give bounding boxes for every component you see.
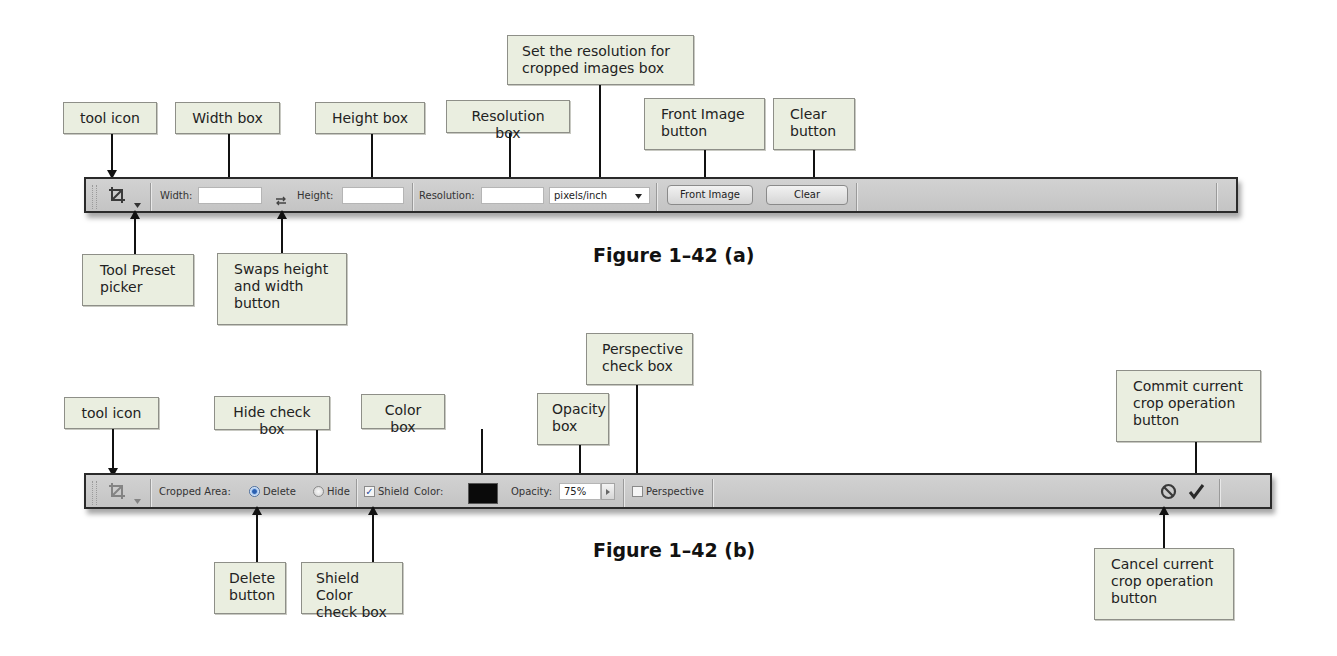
figure-caption-a: Figure 1–42 (a)	[593, 244, 754, 266]
callout-text-line2: crop operation	[1133, 395, 1250, 412]
callout-text-line1: Tool Preset	[100, 262, 183, 279]
width-label: Width:	[160, 190, 192, 201]
callout-tool-icon-a: tool icon	[63, 102, 157, 134]
callout-text-line2: button	[790, 123, 844, 140]
tool-preset-picker[interactable]	[134, 489, 141, 508]
callout-text-line2: button	[229, 587, 275, 604]
clear-button[interactable]: Clear	[766, 185, 848, 205]
callout-resolution-box: Resolution box	[446, 100, 570, 133]
callout-text-line2: picker	[100, 279, 183, 296]
callout-text-line1: Cancel current	[1111, 556, 1223, 573]
perspective-label[interactable]: Perspective	[646, 486, 704, 497]
delete-label[interactable]: Delete	[263, 486, 296, 497]
toolbar-grip[interactable]	[92, 481, 97, 505]
callout-text-line1: Front Image	[661, 106, 754, 123]
delete-radio[interactable]	[249, 486, 260, 497]
width-input[interactable]	[198, 187, 262, 204]
height-label: Height:	[297, 190, 333, 201]
callout-text-line1: Shield Color	[316, 570, 392, 604]
resolution-unit-value: pixels/inch	[554, 190, 607, 201]
hide-radio[interactable]	[313, 486, 324, 497]
callout-text-line3: button	[1133, 412, 1250, 429]
callout-shield-color-check-box: Shield Color check box	[301, 562, 403, 614]
callout-text-line3: button	[234, 295, 336, 312]
shield-checkbox[interactable]: ✓	[364, 486, 375, 497]
toolbar-grip[interactable]	[92, 185, 97, 209]
callout-tool-icon-b: tool icon	[64, 397, 159, 429]
callout-set-resolution: Set the resolution for cropped images bo…	[507, 35, 694, 85]
callout-text-line1: Swaps height	[234, 261, 336, 278]
crop-icon[interactable]	[108, 482, 126, 500]
callout-height-box: Height box	[315, 102, 425, 134]
callout-text-line2: check box	[602, 358, 682, 375]
chevron-right-icon	[606, 489, 610, 495]
swap-arrows-icon	[275, 196, 287, 206]
callout-text-line1: Opacity	[552, 401, 598, 418]
cancel-crop-button[interactable]	[1160, 483, 1177, 504]
callout-text: tool icon	[82, 405, 142, 421]
cancel-icon	[1160, 483, 1177, 500]
swap-height-width-button[interactable]	[275, 191, 287, 210]
callout-color-box: Color box	[361, 394, 445, 429]
opacity-label: Opacity:	[511, 486, 552, 497]
resolution-unit-select[interactable]: pixels/inch	[549, 187, 650, 204]
checkmark-icon	[1188, 483, 1205, 500]
callout-text: Hide check box	[233, 404, 310, 437]
callout-text: tool icon	[80, 110, 140, 126]
resolution-input[interactable]	[481, 187, 544, 204]
callout-text-line3: button	[1111, 590, 1223, 607]
callout-text: Color box	[385, 402, 422, 435]
callout-cancel-button: Cancel current crop operation button	[1094, 548, 1234, 620]
callout-text-line1: Perspective	[602, 341, 682, 358]
callout-text: Width box	[192, 110, 262, 126]
chevron-down-icon	[134, 203, 141, 208]
opacity-slider-button[interactable]	[601, 483, 615, 500]
crop-options-bar-a: Width: Height: Resolution: pixels/inch F…	[84, 177, 1238, 213]
color-label: Color:	[414, 486, 443, 497]
callout-text-line2: and width	[234, 278, 336, 295]
callout-clear: Clear button	[773, 98, 855, 150]
color-swatch[interactable]	[468, 483, 498, 504]
callout-text-line1: Commit current	[1133, 378, 1250, 395]
crop-options-bar-b: Cropped Area: Delete Hide ✓ Shield Color…	[84, 473, 1272, 509]
callout-front-image: Front Image button	[644, 98, 765, 150]
callout-text-line1: Clear	[790, 106, 844, 123]
callout-swap-button: Swaps height and width button	[217, 253, 347, 325]
figure-caption-b: Figure 1–42 (b)	[593, 539, 755, 561]
callout-tool-preset-picker: Tool Preset picker	[82, 254, 194, 306]
callout-delete-button: Delete button	[214, 562, 286, 614]
callout-text-line1: Set the resolution for	[522, 43, 683, 60]
chevron-down-icon	[134, 499, 141, 504]
callout-text-line2: crop operation	[1111, 573, 1223, 590]
callout-text-line1: Delete	[229, 570, 275, 587]
callout-text-line2: box	[552, 418, 598, 435]
callout-text-line2: cropped images box	[522, 60, 683, 77]
callout-text-line2: check box	[316, 604, 392, 621]
callout-width-box: Width box	[175, 102, 280, 134]
callout-text: Height box	[332, 110, 408, 126]
callout-opacity-box-real: Opacity box	[537, 393, 609, 445]
callout-text-line2: button	[661, 123, 754, 140]
crop-icon[interactable]	[108, 186, 126, 204]
opacity-input[interactable]: 75%	[559, 483, 601, 500]
front-image-button[interactable]: Front Image	[667, 185, 753, 205]
commit-crop-button[interactable]	[1188, 483, 1205, 504]
hide-label[interactable]: Hide	[327, 486, 350, 497]
callout-hide-check-box: Hide check box	[214, 396, 330, 430]
callout-commit-button: Commit current crop operation button	[1116, 370, 1261, 442]
callout-text: Resolution box	[471, 108, 544, 141]
chevron-down-icon	[635, 194, 642, 199]
cropped-area-label: Cropped Area:	[159, 486, 231, 497]
shield-label[interactable]: Shield	[378, 486, 409, 497]
callout-perspective-check-box: Perspective check box	[586, 333, 693, 385]
resolution-label: Resolution:	[419, 190, 475, 201]
perspective-checkbox[interactable]	[632, 486, 643, 497]
height-input[interactable]	[342, 187, 404, 204]
